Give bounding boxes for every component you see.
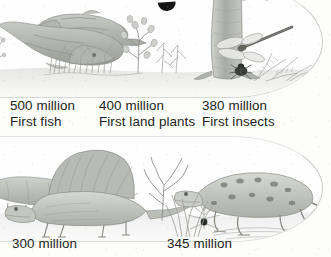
caption-500-million: 500 million First fish	[10, 98, 75, 129]
caption-345-million: 345 million	[167, 236, 232, 252]
scanned-page: 500 million First fish 400 million First…	[0, 0, 331, 257]
caption-age: 300 million	[12, 236, 77, 252]
caption-age: 380 million	[202, 98, 275, 114]
caption-300-million: 300 million	[12, 236, 77, 252]
caption-380-million: 380 million First insects	[202, 98, 275, 129]
upper-panel-artwork	[0, 0, 322, 97]
caption-age: 345 million	[167, 236, 232, 252]
caption-event: First land plants	[99, 114, 195, 130]
caption-age: 500 million	[10, 98, 75, 114]
caption-400-million: 400 million First land plants	[99, 98, 195, 129]
caption-age: 400 million	[99, 98, 195, 114]
upper-timeline-panel	[0, 0, 323, 98]
seaweed-sketch	[0, 36, 6, 69]
lower-timeline-panel	[0, 136, 323, 242]
lower-panel-artwork	[0, 137, 322, 241]
caption-event: First insects	[202, 114, 275, 130]
ground-wash	[0, 68, 322, 97]
caption-event: First fish	[10, 114, 75, 130]
